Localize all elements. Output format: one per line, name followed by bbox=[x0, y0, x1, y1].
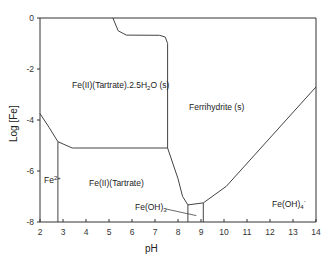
region-label-ferrihydrite: Ferrihydrite (s) bbox=[189, 102, 244, 112]
plot-frame bbox=[40, 18, 316, 222]
x-tick-label: 7 bbox=[153, 227, 158, 237]
x-tick-label: 12 bbox=[265, 227, 275, 237]
region-label-fe2: Fe2+ bbox=[44, 175, 61, 185]
x-tick-label: 6 bbox=[130, 227, 135, 237]
y-tick-label: -6 bbox=[26, 166, 34, 176]
y-axis-title: Log [Fe] bbox=[8, 105, 19, 142]
y-tick-label: -2 bbox=[26, 64, 34, 74]
x-axis-title: pH bbox=[145, 243, 158, 254]
x-tick-label: 2 bbox=[38, 227, 43, 237]
pourbaix-chart: 2345678910111213140-2-4-6-8 pH Log [Fe] … bbox=[0, 0, 329, 265]
region-label-feoh3: Fe(OH)3 bbox=[135, 202, 167, 213]
x-tick-label: 4 bbox=[84, 227, 89, 237]
region-label-feoh4: Fe(OH)4- bbox=[272, 198, 306, 210]
x-tick-label: 11 bbox=[243, 227, 252, 237]
x-tick-label: 13 bbox=[288, 227, 298, 237]
x-tick-label: 3 bbox=[61, 227, 66, 237]
boundary-line bbox=[40, 114, 168, 148]
feoh3-pointer-line bbox=[166, 209, 196, 216]
x-tick-label: 14 bbox=[311, 227, 321, 237]
x-tick-label: 8 bbox=[176, 227, 181, 237]
region-label-tartrate-solid: Fe(II)(Tartrate).2.5H2O (s) bbox=[72, 80, 170, 91]
x-tick-label: 10 bbox=[219, 227, 229, 237]
axes bbox=[37, 18, 316, 222]
y-tick-label: -4 bbox=[26, 115, 34, 125]
y-tick-label: -8 bbox=[26, 217, 34, 227]
boundary-lines bbox=[40, 18, 316, 222]
x-tick-label: 9 bbox=[199, 227, 204, 237]
y-tick-label: 0 bbox=[29, 13, 34, 23]
x-tick-label: 5 bbox=[107, 227, 112, 237]
region-label-tartrate: Fe(II)(Tartrate) bbox=[89, 178, 144, 188]
